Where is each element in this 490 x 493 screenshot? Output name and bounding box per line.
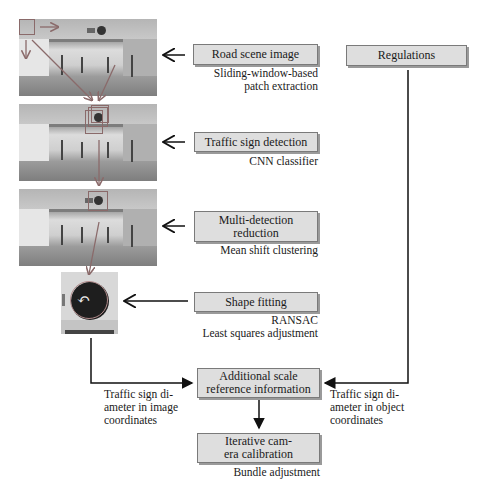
road-scene-note: Sliding-window-based patch extraction bbox=[214, 67, 318, 93]
detection-photo bbox=[19, 104, 157, 181]
image-diameter-label: Traffic sign di- ameter in image coordin… bbox=[104, 388, 178, 427]
road-scene-image-step: Road scene image bbox=[193, 44, 318, 65]
reduced-photo bbox=[19, 189, 157, 266]
multi-detection-reduction-step: Multi-detection reduction bbox=[194, 211, 318, 242]
road-scene-photo bbox=[19, 19, 157, 96]
sliding-window-box bbox=[19, 19, 35, 35]
shape-fitting-step: Shape fitting bbox=[194, 292, 318, 312]
detection-note: CNN classifier bbox=[249, 155, 318, 168]
fitted-ellipse bbox=[70, 281, 108, 319]
object-diameter-label: Traffic sign di- ameter in object coordi… bbox=[330, 388, 404, 427]
iterative-camera-calibration-step: Iterative cam- era calibration bbox=[197, 433, 320, 463]
additional-scale-reference-step: Additional scale reference information bbox=[197, 368, 320, 398]
road-scene-image-label: Road scene image bbox=[212, 48, 299, 61]
detection-box-3 bbox=[91, 105, 109, 123]
regulations-step: Regulations bbox=[346, 45, 467, 66]
reduced-detection-box bbox=[88, 191, 108, 211]
reduction-note: Mean shift clustering bbox=[220, 244, 318, 257]
calibration-note: Bundle adjustment bbox=[233, 466, 320, 479]
traffic-sign-detection-label: Traffic sign detection bbox=[205, 136, 308, 149]
sign-crop: ↶ bbox=[61, 272, 118, 334]
shape-note: RANSAC Least squares adjustment bbox=[202, 314, 318, 340]
regulations-label: Regulations bbox=[378, 49, 435, 62]
shape-fitting-label: Shape fitting bbox=[225, 296, 287, 309]
traffic-sign-detection-step: Traffic sign detection bbox=[194, 132, 318, 152]
